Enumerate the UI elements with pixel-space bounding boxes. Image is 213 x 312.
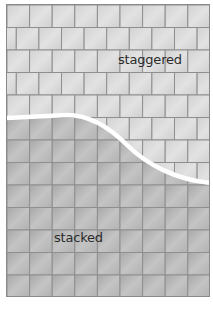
tile-diagram-frame: staggered stacked (6, 4, 210, 297)
stacked-label: stacked (54, 230, 103, 245)
staggered-label: staggered (118, 52, 182, 67)
tile-pattern-canvas (7, 5, 210, 297)
